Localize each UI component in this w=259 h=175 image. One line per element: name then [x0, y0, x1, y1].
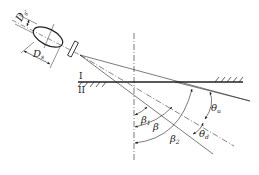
hatching-right [215, 77, 243, 82]
beam-refraction-diagram: I II Ds' Ds β1 β β2 θu θd [0, 0, 259, 175]
medium-label-II: II [78, 85, 86, 95]
refracted-upper-edge [175, 82, 250, 101]
wedge-block [68, 41, 79, 57]
angle-label-beta1: β1 [140, 114, 151, 126]
angle-label-beta2: β2 [169, 133, 180, 145]
angle-label-theta-u: θu [211, 102, 221, 114]
dim-label-ds: Ds [32, 48, 44, 60]
beam-center-axis [80, 55, 234, 146]
angle-label-beta: β [152, 121, 159, 132]
angle-label-theta-d: θd [199, 128, 209, 140]
medium-label-I: I [79, 71, 83, 81]
beam-lower-edge [80, 55, 213, 154]
